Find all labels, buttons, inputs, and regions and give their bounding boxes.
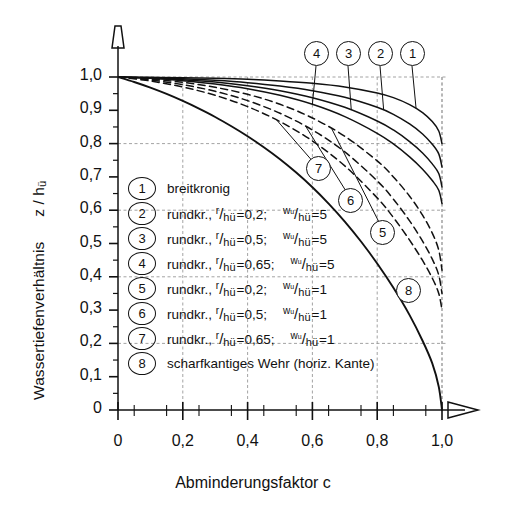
legend-label-7: rundkr., r/hü =0,65; wu/hü =1 xyxy=(167,330,334,347)
ratio-r-value: =0,65; xyxy=(237,257,275,272)
y-tick-label: 0,7 xyxy=(58,166,102,184)
y-tick-label: 0,8 xyxy=(58,133,102,151)
x-axis-title: Abminderungsfaktor c xyxy=(0,474,506,492)
ratio-r-value: =0,5; xyxy=(237,307,267,322)
legend-prefix: rundkr., xyxy=(167,232,212,247)
legend-marker-1: 1 xyxy=(128,177,156,200)
ratio-r-value: =0,2; xyxy=(237,207,267,222)
curve-callout-8[interactable]: 8 xyxy=(396,278,421,303)
legend-prefix: rundkr., xyxy=(167,257,212,272)
legend-row[interactable]: 8 scharfkantiges Wehr (horiz. Kante) xyxy=(128,351,375,376)
y-tick-label: 0,6 xyxy=(58,199,102,217)
legend-row[interactable]: 1 breitkronig xyxy=(128,176,375,201)
legend-prefix: rundkr., xyxy=(167,307,212,322)
legend-row[interactable]: 7 rundkr., r/hü =0,65; wu/hü =1 xyxy=(128,326,375,351)
legend-marker-5: 5 xyxy=(128,277,156,300)
ratio-w-value: =5 xyxy=(312,232,327,247)
legend-label-3: rundkr., r/hü =0,5; wu/hü =5 xyxy=(167,230,327,247)
legend-marker-3: 3 xyxy=(128,227,156,250)
y-tick-label: 0,2 xyxy=(58,332,102,350)
legend-prefix: rundkr., xyxy=(167,332,212,347)
legend-marker-6: 6 xyxy=(128,302,156,325)
curve-callout-3[interactable]: 3 xyxy=(336,41,361,66)
legend-prefix: rundkr., xyxy=(167,207,212,222)
legend-row[interactable]: 3 rundkr., r/hü =0,5; wu/hü =5 xyxy=(128,226,375,251)
y-tick-label: 0,1 xyxy=(58,366,102,384)
legend-marker-7: 7 xyxy=(128,327,156,350)
ratio-w-value: =1 xyxy=(312,282,327,297)
curve-callout-2[interactable]: 2 xyxy=(368,41,393,66)
ratio-w-value: =1 xyxy=(319,332,334,347)
ratio-r-value: =0,5; xyxy=(237,232,267,247)
ratio-w-over-h: wu/hü xyxy=(283,280,311,297)
legend-label-4: rundkr., r/hü =0,65; wu/hü =5 xyxy=(167,255,334,272)
ratio-w-over-h: wu/hü xyxy=(290,255,318,272)
legend-marker-4: 4 xyxy=(128,252,156,275)
y-tick-label: 0,9 xyxy=(58,99,102,117)
y-tick-label: 0 xyxy=(58,399,102,417)
legend-label-2: rundkr., r/hü =0,2; wu/hü =5 xyxy=(167,205,327,222)
legend-row[interactable]: 5 rundkr., r/hü =0,2; wu/hü =1 xyxy=(128,276,375,301)
ratio-r-over-h: r/hü xyxy=(216,255,236,272)
y-tick-label: 0,5 xyxy=(58,233,102,251)
curve-1 xyxy=(118,77,442,144)
legend-row[interactable]: 4 rundkr., r/hü =0,65; wu/hü =5 xyxy=(128,251,375,276)
legend-label-6: rundkr., r/hü =0,5; wu/hü =1 xyxy=(167,305,327,322)
x-tick-label: 0,2 xyxy=(160,432,206,450)
ratio-w-over-h: wu/hü xyxy=(283,305,311,322)
ratio-r-over-h: r/hü xyxy=(216,330,236,347)
legend-label-5: rundkr., r/hü =0,2; wu/hü =1 xyxy=(167,280,327,297)
ratio-r-value: =0,65; xyxy=(237,332,275,347)
y-axis-title-main: Wassertiefenverhältnis xyxy=(30,242,47,400)
y-tick-label: 1,0 xyxy=(58,66,102,84)
y-axis-title-var: z / h xyxy=(30,187,47,217)
legend-prefix: rundkr., xyxy=(167,282,212,297)
y-tick-label: 0,4 xyxy=(58,266,102,284)
x-tick-label: 1,0 xyxy=(419,432,465,450)
x-tick-label: 0 xyxy=(95,432,141,450)
x-axis-title-text: Abminderungsfaktor c xyxy=(175,474,331,491)
legend-marker-2: 2 xyxy=(128,202,156,225)
ratio-w-over-h: wu/hü xyxy=(283,205,311,222)
ratio-r-over-h: r/hü xyxy=(216,280,236,297)
x-tick-label: 0,8 xyxy=(354,432,400,450)
legend-row[interactable]: 2 rundkr., r/hü =0,2; wu/hü =5 xyxy=(128,201,375,226)
ratio-w-over-h: wu/hü xyxy=(290,330,318,347)
ratio-w-over-h: wu/hü xyxy=(283,230,311,247)
legend-row[interactable]: 6 rundkr., r/hü =0,5; wu/hü =1 xyxy=(128,301,375,326)
x-tick-label: 0,4 xyxy=(225,432,271,450)
legend-label-1: breitkronig xyxy=(167,181,230,196)
ratio-w-value: =5 xyxy=(319,257,334,272)
y-axis-title: Wassertiefenverhältnis z / hü xyxy=(30,181,48,400)
curve-callout-1[interactable]: 1 xyxy=(400,41,425,66)
ratio-r-over-h: r/hü xyxy=(216,305,236,322)
ratio-r-over-h: r/hü xyxy=(216,205,236,222)
y-tick-label: 0,3 xyxy=(58,299,102,317)
ratio-w-value: =1 xyxy=(312,307,327,322)
x-tick-label: 0,6 xyxy=(289,432,335,450)
ratio-w-value: =5 xyxy=(312,207,327,222)
legend-marker-8: 8 xyxy=(128,352,156,375)
legend: 1 breitkronig 2 rundkr., r/hü =0,2; wu/h… xyxy=(128,176,375,376)
ratio-r-value: =0,2; xyxy=(237,282,267,297)
ratio-r-over-h: r/hü xyxy=(216,230,236,247)
curve-callout-4[interactable]: 4 xyxy=(304,41,329,66)
legend-label-8: scharfkantiges Wehr (horiz. Kante) xyxy=(167,356,375,371)
y-axis-title-sub: ü xyxy=(36,181,48,187)
